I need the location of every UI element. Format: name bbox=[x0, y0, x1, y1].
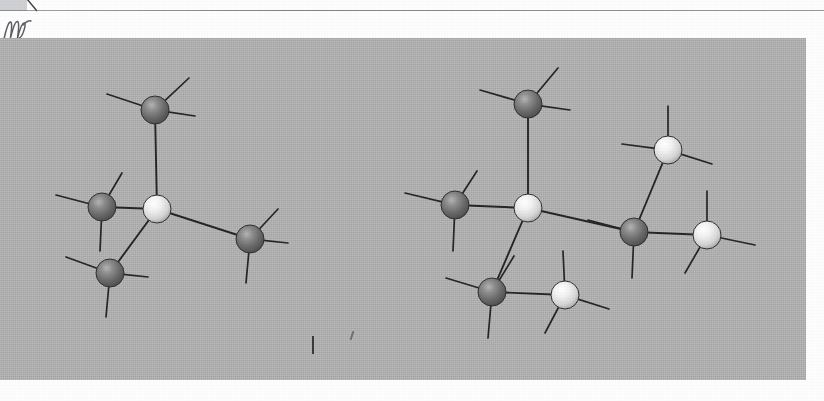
free-valence-stub bbox=[461, 171, 477, 196]
free-valence-stub bbox=[107, 94, 145, 107]
free-valence-stub bbox=[685, 245, 701, 273]
free-valence-stub bbox=[108, 173, 122, 198]
free-valence-stub bbox=[575, 298, 609, 309]
atom-dark bbox=[96, 259, 124, 287]
atom-dark bbox=[478, 278, 506, 306]
free-valence-stub bbox=[446, 278, 481, 289]
free-valence-stub bbox=[632, 243, 634, 278]
free-valence-stub bbox=[166, 112, 195, 116]
free-valence-stub bbox=[66, 257, 100, 269]
free-valence-stub bbox=[622, 144, 657, 149]
atom-light bbox=[654, 136, 682, 164]
free-valence-stub bbox=[405, 193, 444, 202]
free-valence-stub bbox=[258, 209, 278, 231]
free-valence-stub bbox=[545, 305, 560, 333]
free-valence-stub bbox=[261, 240, 288, 243]
bond bbox=[155, 110, 157, 209]
free-valence-stub bbox=[563, 251, 565, 284]
atom-dark bbox=[88, 193, 116, 221]
atom-light bbox=[514, 194, 542, 222]
free-valence-stub bbox=[453, 216, 455, 251]
free-valence-stub bbox=[588, 220, 623, 229]
molecular-structures-diagram bbox=[0, 38, 806, 380]
atom-light bbox=[551, 281, 579, 309]
free-valence-stub bbox=[246, 250, 249, 283]
scanned-page bbox=[0, 0, 824, 401]
free-valence-stub bbox=[121, 274, 148, 277]
free-valence-stub bbox=[480, 90, 517, 101]
free-valence-stub bbox=[718, 237, 755, 245]
scan-speck bbox=[312, 336, 314, 354]
atom-dark bbox=[620, 218, 648, 246]
free-valence-stub bbox=[106, 284, 109, 317]
free-valence-stub bbox=[488, 303, 491, 338]
free-valence-stub bbox=[163, 78, 189, 102]
atom-light bbox=[693, 221, 721, 249]
atom-layer bbox=[88, 90, 721, 309]
free-valence-stub bbox=[678, 153, 712, 164]
free-valence-stub bbox=[56, 195, 91, 204]
atom-dark bbox=[514, 90, 542, 118]
atom-light bbox=[143, 195, 171, 223]
atom-dark bbox=[236, 225, 264, 253]
molecular-figure-panel bbox=[0, 38, 806, 380]
free-valence-stub bbox=[100, 218, 102, 251]
bond-layer bbox=[102, 104, 707, 295]
page-top-rule bbox=[0, 10, 824, 11]
atom-dark bbox=[441, 191, 469, 219]
bond bbox=[157, 209, 250, 239]
free-valence-stub bbox=[539, 106, 570, 110]
atom-dark bbox=[141, 96, 169, 124]
free-valence-stub bbox=[535, 68, 558, 96]
